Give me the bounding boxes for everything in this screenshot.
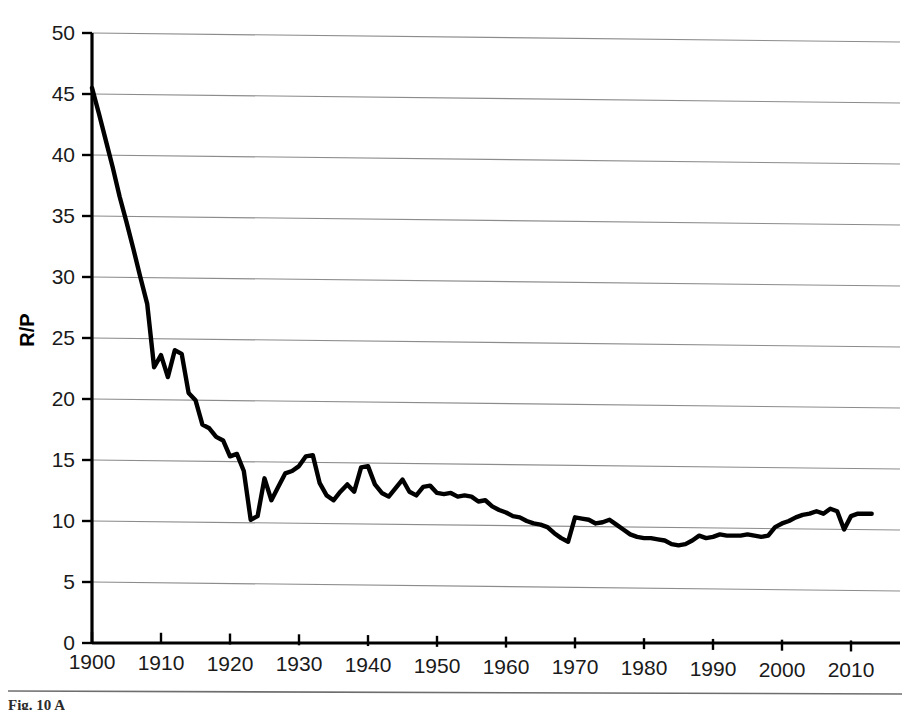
y-tick-label: 25 xyxy=(52,326,75,349)
y-tick-label: 50 xyxy=(52,21,75,44)
y-tick-label: 35 xyxy=(52,204,75,227)
gridline xyxy=(92,399,900,408)
y-tick-label: 40 xyxy=(52,143,75,166)
gridline xyxy=(92,338,900,347)
x-tick-label: 1990 xyxy=(690,657,737,680)
gridline xyxy=(92,277,900,286)
gridline xyxy=(92,155,900,164)
y-axis-tick-labels: 05101520253035404550 xyxy=(52,21,75,654)
gridline xyxy=(92,582,900,591)
x-tick-label: 1900 xyxy=(69,650,116,673)
x-tick-label: 2000 xyxy=(759,658,806,681)
y-axis-title: R/P xyxy=(16,313,38,346)
x-tick-label: 1980 xyxy=(621,656,668,679)
y-tick-label: 30 xyxy=(52,265,75,288)
x-tick-label: 1910 xyxy=(138,651,185,674)
x-tick-label: 1950 xyxy=(414,654,461,677)
x-tick-label: 2010 xyxy=(828,658,875,681)
x-tick-label: 1970 xyxy=(552,655,599,678)
figure-caption: Fig. 10 A xyxy=(8,698,65,710)
y-tick-label: 20 xyxy=(52,387,75,410)
y-tick-label: 15 xyxy=(52,448,75,471)
gridline xyxy=(92,460,900,469)
x-axis-tick-labels: 1900191019201930194019501960197019801990… xyxy=(69,650,875,681)
figure-container: 05101520253035404550 1900191019201930194… xyxy=(0,0,910,710)
x-tick-label: 1930 xyxy=(276,652,323,675)
y-tick-label: 5 xyxy=(63,570,75,593)
x-tick-label: 1920 xyxy=(207,652,254,675)
x-tick-label: 1940 xyxy=(345,653,392,676)
gridline xyxy=(92,33,900,42)
y-tick-label: 10 xyxy=(52,509,75,532)
line-chart: 05101520253035404550 1900191019201930194… xyxy=(0,0,910,710)
x-tick-label: 1960 xyxy=(483,655,530,678)
gridline xyxy=(92,94,900,103)
caption-divider xyxy=(8,691,902,694)
y-tick-label: 45 xyxy=(52,82,75,105)
gridline xyxy=(92,216,900,225)
